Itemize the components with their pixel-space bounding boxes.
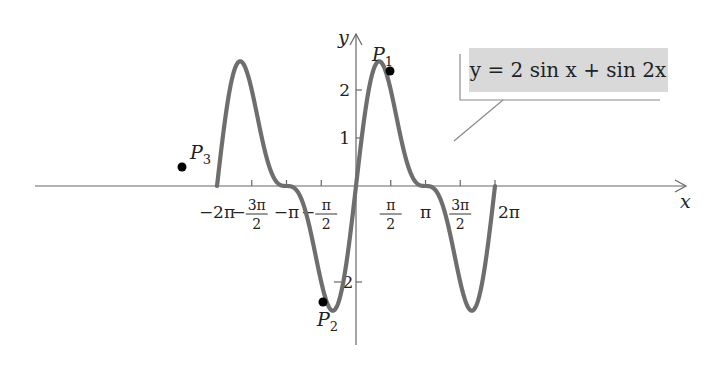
point-p2: P2 <box>316 298 338 335</box>
point-p3: P3 <box>178 141 212 172</box>
svg-text:π: π <box>322 197 331 213</box>
svg-text:−: − <box>232 202 246 222</box>
labeled-points: P1P2P3 <box>178 43 395 334</box>
x-axis-label: x <box>680 190 691 212</box>
x-tick: −π2 <box>301 180 337 232</box>
svg-text:2: 2 <box>339 80 350 100</box>
svg-text:2π: 2π <box>498 202 520 222</box>
svg-text:1: 1 <box>339 128 350 148</box>
svg-text:2: 2 <box>386 216 395 232</box>
function-label-callout: y = 2 sin x + sin 2x <box>454 48 668 141</box>
x-tick: π2 <box>380 180 402 232</box>
y-axis-label: y <box>337 26 349 48</box>
svg-text:3π: 3π <box>248 197 266 213</box>
svg-text:2: 2 <box>322 216 331 232</box>
y-tick: 2 <box>339 80 362 100</box>
svg-text:3π: 3π <box>451 197 469 213</box>
svg-text:2: 2 <box>456 216 465 232</box>
function-plot: y = 2 sin x + sin 2x x y −2π−3π2−π−π2π2π… <box>0 0 713 368</box>
svg-text:π: π <box>386 197 395 213</box>
svg-text:2: 2 <box>252 216 261 232</box>
function-label: y = 2 sin x + sin 2x <box>469 58 667 82</box>
x-tick: 3π2 <box>449 180 471 232</box>
y-tick: 1 <box>339 128 362 148</box>
y-tick: 2 <box>334 272 362 292</box>
svg-text:π: π <box>420 202 431 222</box>
callout-leader-line <box>454 100 503 141</box>
x-axis: x <box>35 180 691 212</box>
svg-text:P3: P3 <box>189 141 211 167</box>
svg-text:−π: −π <box>274 202 299 222</box>
x-tick: −3π2 <box>232 180 268 232</box>
svg-text:−2π: −2π <box>199 202 235 222</box>
